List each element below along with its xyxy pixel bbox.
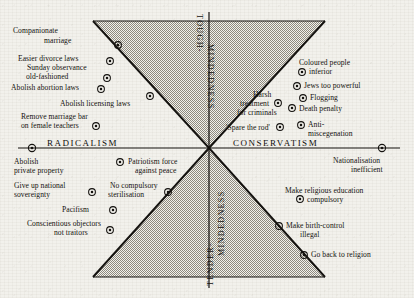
label-coloured-people-line2: inferior [309,67,332,76]
label-no-compulsory-sterilisation-line1: No compulsory [110,181,158,190]
marker-make-religious-education-compulsory[interactable] [297,196,304,203]
label-give-up-sovereignty-line2: sovereignty [14,190,50,199]
label-companionate-marriage-line2: marriage [44,36,71,45]
label-remove-marriage-bar-line2: on female teachers [21,121,79,130]
label-religious-education-line2: compulsory [307,195,343,204]
label-sunday-observance-line1: Sunday observance [27,63,87,72]
label-flogging: Flogging [310,93,338,102]
label-remove-marriage-bar-line1: Remove marriage bar [21,112,88,121]
label-coloured-people-line1: Coloured people [299,58,350,67]
label-jews-too-powerful: Jews too powerful [304,81,361,90]
marker-coloured-people-inferior[interactable] [299,69,306,76]
label-harsh-line2: treatment [240,99,269,108]
label-nationalisation-line2: inefficient [351,165,383,174]
label-patriotism-line2: against peace [135,166,176,175]
marker-spare-the-rod[interactable] [277,124,284,131]
marker-patriotism-force-against-peace[interactable] [117,159,124,166]
label-harsh-line3: for criminals [237,108,277,117]
axis-label-tender-part1: TENDER- [206,242,215,286]
label-anti-miscegenation-line1: Anti- [308,120,324,129]
axis-label-tough-part2: MINDEDNESS [206,44,215,110]
marker-remove-marriage-bar[interactable] [93,123,100,130]
label-abolish-abortion-laws: Abolish abortion laws [11,83,79,92]
label-companionate-marriage-line1: Companionate [13,26,58,35]
axis-label-tough-part1: TOUGH- [195,14,204,53]
label-abolish-private-property-line1: Abolish [14,157,38,166]
label-abolish-licensing-laws: Abolish licensing laws [60,99,130,108]
axis-label-radicalism: RADICALISM [47,138,118,148]
axis-label-conservatism: CONSERVATISM [233,138,318,148]
marker-death-penalty[interactable] [289,105,296,112]
label-death-penalty: Death penalty [299,104,342,113]
marker-sunday-observance[interactable] [104,75,111,82]
marker-anti-miscegenation[interactable] [298,122,305,129]
marker-pacifism[interactable] [110,207,117,214]
label-spare-the-rod: 'Spare the rod' [226,123,270,132]
marker-jews-too-powerful[interactable] [294,83,301,90]
label-nationalisation-line1: Nationalisation [333,156,380,165]
label-no-compulsory-sterilisation-line2: sterilisation [108,190,144,199]
axis-label-tender-part2: MINDEDNESS [217,190,226,256]
label-give-up-sovereignty-line1: Give up national [14,181,65,190]
marker-flogging[interactable] [300,95,307,102]
label-conscientious-objectors-line2: not traitors [54,228,88,237]
marker-give-up-national-sovereignty[interactable] [89,189,96,196]
marker-easier-divorce-laws[interactable] [107,58,114,65]
figure-container: Companionate marriage Easier divorce law… [0,0,414,298]
label-sunday-observance-line2: old-fashioned [26,72,68,81]
marker-conscientious-objectors[interactable] [107,227,114,234]
label-religious-education-line1: Make religious education [285,186,363,195]
label-harsh-line1: Harsh [253,90,271,99]
label-birth-control-line1: Make birth-control [286,221,344,230]
label-birth-control-line2: illegal [300,230,319,239]
label-easier-divorce-laws: Easier divorce laws [18,54,78,63]
label-anti-miscegenation-line2: miscegenation [308,129,353,138]
label-abolish-private-property-line2: private property [14,166,64,175]
label-go-back-to-religion: Go back to religion [311,250,371,259]
label-patriotism-line1: Patriotism force [128,157,178,166]
label-conscientious-objectors-line1: Conscientious objectors [27,219,101,228]
label-pacifism: Pacifism [62,205,89,214]
marker-abolish-licensing-laws[interactable] [147,93,154,100]
marker-harsh-treatment[interactable] [275,100,282,107]
marker-abolish-abortion-laws[interactable] [98,86,105,93]
